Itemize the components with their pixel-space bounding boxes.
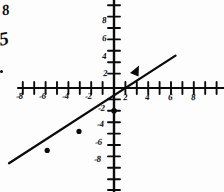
x-tick-label-8: 8 bbox=[191, 93, 196, 102]
y-tick-label-6: 6 bbox=[102, 34, 107, 43]
x-tick-label--6: -6 bbox=[39, 92, 46, 101]
plotted-line bbox=[9, 56, 176, 164]
x-tick-label-2: 2 bbox=[123, 93, 128, 102]
x-tick-label--4: -4 bbox=[62, 92, 69, 101]
margin-note-top: 8 bbox=[1, 2, 11, 18]
margin-edge-mark bbox=[0, 70, 3, 73]
graph-screenshot: -8 -6 -4 -2 2 4 6 8 8 6 4 2 -2 -4 -6 -8 … bbox=[0, 0, 224, 192]
x-tick-label-4: 4 bbox=[145, 93, 150, 102]
data-point bbox=[76, 129, 81, 134]
x-tick-label--2: -2 bbox=[85, 92, 92, 101]
y-tick-label-4: 4 bbox=[102, 52, 107, 61]
line-direction-arrow bbox=[130, 66, 139, 77]
y-tick-label-2: 2 bbox=[103, 69, 108, 78]
y-tick-label--6: -6 bbox=[95, 138, 102, 147]
x-tick-label--8: -8 bbox=[16, 92, 23, 101]
y-tick-label--4: -4 bbox=[97, 120, 104, 129]
x-tick-label-6: 6 bbox=[168, 93, 173, 102]
y-tick-label-8: 8 bbox=[102, 16, 107, 25]
y-tick-label--2: -2 bbox=[98, 104, 105, 113]
data-point-markers bbox=[45, 108, 117, 153]
y-tick-label--8: -8 bbox=[94, 155, 101, 164]
data-point bbox=[45, 148, 50, 153]
data-point bbox=[111, 108, 117, 114]
